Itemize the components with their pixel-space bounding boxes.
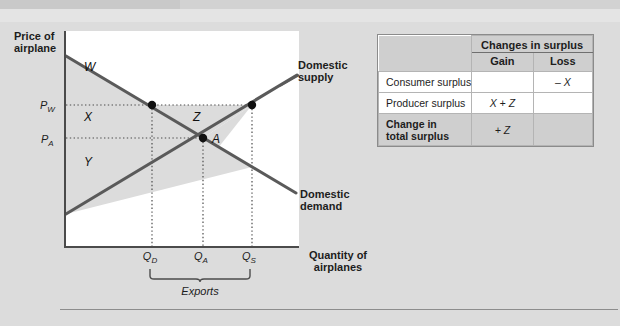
table-col-loss: Loss xyxy=(533,53,592,71)
plot-area xyxy=(64,31,299,248)
region-label-z: Z xyxy=(193,110,200,124)
y-axis-title-line1: Price of xyxy=(14,30,54,42)
region-label-w: W xyxy=(84,60,95,74)
point-qs-pw xyxy=(248,101,256,109)
y-tick-price-autarky: PA xyxy=(41,133,54,148)
y-axis-title-line2: airplane xyxy=(14,42,56,54)
table-total-row: Change in total surplus + Z xyxy=(379,114,593,146)
total-label-line2: total surplus xyxy=(386,130,449,142)
x-tick-q-supply: QS xyxy=(236,250,262,265)
y-axis-title: Price of airplane xyxy=(14,30,56,54)
y-tick-price-world: PW xyxy=(40,99,55,114)
supply-label-line1: Domestic xyxy=(298,59,348,71)
x-axis-title-line2: airplanes xyxy=(314,261,362,273)
cell-consumer-gain xyxy=(472,71,533,92)
table-col-gain: Gain xyxy=(472,53,533,71)
domestic-supply-label: Domestic supply xyxy=(298,59,348,83)
table-row: Consumer surplus – X xyxy=(379,71,593,92)
point-label-a: A xyxy=(212,132,220,146)
pw-sub: W xyxy=(47,105,55,114)
table-header-changes-in-surplus: Changes in surplus xyxy=(472,36,593,53)
qs-main: Q xyxy=(242,250,251,262)
row-label-change-in-total-surplus: Change in total surplus xyxy=(379,114,472,146)
table-corner-cell xyxy=(379,36,472,72)
region-label-x: X xyxy=(84,110,92,124)
x-tick-q-demand: QD xyxy=(137,250,163,265)
cell-total-loss xyxy=(533,114,592,146)
cell-producer-loss xyxy=(533,93,592,114)
region-label-y: Y xyxy=(84,155,92,169)
demand-label-line2: demand xyxy=(300,200,342,212)
x-axis-title: Quantity of airplanes xyxy=(298,249,378,273)
cell-total-gain: + Z xyxy=(472,114,533,146)
plot-svg xyxy=(66,31,299,246)
total-label-line1: Change in xyxy=(386,118,437,130)
horizontal-rule xyxy=(60,309,618,310)
cell-consumer-loss: – X xyxy=(533,71,592,92)
supply-leader-line xyxy=(280,75,299,86)
exports-bracket xyxy=(110,268,290,284)
chart-figure: Price of airplane Quantity of airplanes … xyxy=(0,0,340,300)
surplus-table: Changes in surplus Gain Loss Consumer su… xyxy=(378,35,593,146)
point-autarky-a xyxy=(199,134,207,142)
table-row: Producer surplus X + Z xyxy=(379,93,593,114)
exports-bracket-label: Exports xyxy=(110,285,290,297)
qd-sub: D xyxy=(151,256,157,265)
cell-producer-gain: X + Z xyxy=(472,93,533,114)
supply-label-line2: supply xyxy=(298,71,333,83)
qa-sub: A xyxy=(203,256,208,265)
point-qd-pw xyxy=(148,101,156,109)
row-label-producer-surplus: Producer surplus xyxy=(379,93,472,114)
demand-label-line1: Domestic xyxy=(300,188,350,200)
pa-sub: A xyxy=(48,139,53,148)
qs-sub: S xyxy=(251,256,256,265)
surplus-changes-table: Changes in surplus Gain Loss Consumer su… xyxy=(377,34,594,147)
table-header-row-1: Changes in surplus xyxy=(379,36,593,53)
x-tick-q-autarky: QA xyxy=(188,250,214,265)
qa-main: Q xyxy=(194,250,203,262)
x-axis-title-line1: Quantity of xyxy=(309,249,367,261)
domestic-demand-label: Domestic demand xyxy=(300,188,350,212)
row-label-consumer-surplus: Consumer surplus xyxy=(379,71,472,92)
